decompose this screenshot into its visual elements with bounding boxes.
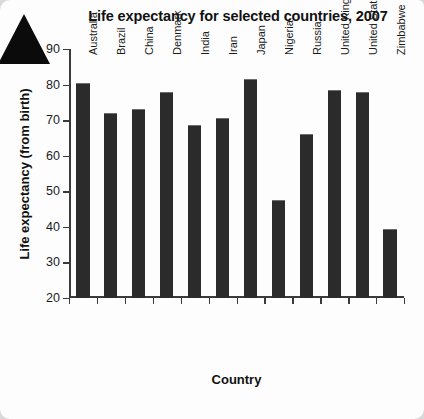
bar: [244, 79, 257, 298]
x-tick-label: China: [143, 26, 155, 55]
y-tick-label: 40: [46, 220, 60, 234]
bar: [160, 92, 173, 298]
y-tick: [63, 156, 69, 157]
bar: [300, 134, 313, 298]
x-tick-label: Zimbabwe: [395, 4, 407, 55]
black-triangle-marker: [0, 14, 50, 64]
x-axis-title: Country: [69, 372, 404, 387]
x-tick-label: Iran: [227, 36, 239, 55]
bar: [132, 109, 145, 298]
x-tick: [181, 298, 182, 304]
y-tick-label: 70: [46, 113, 60, 127]
bar: [272, 200, 285, 298]
bar: [104, 113, 117, 298]
bar: [356, 92, 369, 298]
x-tick: [125, 298, 126, 304]
x-tick-label: Nigeria: [283, 20, 295, 55]
x-tick: [376, 298, 377, 304]
x-tick-label: United Kingdom: [339, 0, 351, 55]
y-axis-title-label: Life expectancy (from birth): [17, 88, 32, 259]
x-tick: [348, 298, 349, 304]
y-tick-label: 30: [46, 255, 60, 269]
x-tick-label: United States: [367, 0, 379, 55]
y-tick: [63, 262, 69, 263]
x-tick-label: India: [199, 31, 211, 55]
plot-area: 2030405060708090 AustraliaBrazilChinaDen…: [69, 49, 404, 298]
y-tick: [63, 191, 69, 192]
x-tick: [153, 298, 154, 304]
x-tick: [404, 298, 405, 304]
x-tick: [237, 298, 238, 304]
y-tick: [63, 227, 69, 228]
x-tick: [69, 298, 70, 304]
y-tick-label: 20: [46, 291, 60, 305]
x-tick-label: Brazil: [115, 27, 127, 55]
x-tick: [292, 298, 293, 304]
y-tick: [63, 120, 69, 121]
y-tick-label: 50: [46, 184, 60, 198]
y-axis-title: Life expectancy (from birth): [16, 58, 32, 290]
bar: [383, 229, 396, 298]
x-tick: [97, 298, 98, 304]
x-tick: [264, 298, 265, 304]
bar: [328, 90, 341, 298]
y-tick-label: 60: [46, 149, 60, 163]
bar: [188, 125, 201, 298]
chart-title: Life expectancy for selected countries, …: [62, 8, 414, 24]
x-tick-label: Russia: [311, 21, 323, 55]
bar: [216, 118, 229, 298]
y-tick: [63, 85, 69, 86]
x-tick: [320, 298, 321, 304]
x-tick: [209, 298, 210, 304]
bar: [76, 83, 89, 298]
y-axis-line: [69, 49, 71, 298]
chart-page: Life expectancy for selected countries, …: [0, 0, 424, 419]
y-tick-label: 80: [46, 78, 60, 92]
x-tick-label: Denmark: [171, 10, 183, 55]
y-tick: [63, 49, 69, 50]
x-tick-label: Japan: [255, 25, 267, 55]
x-tick-label: Australia: [87, 12, 99, 55]
y-tick-label: 90: [46, 42, 60, 56]
